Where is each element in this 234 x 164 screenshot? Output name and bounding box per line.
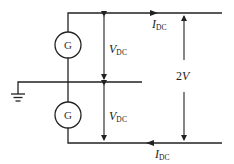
total-voltage-label: 2V <box>176 70 189 82</box>
generator-top-label: G <box>55 40 81 51</box>
voltage-top-label: VDC <box>109 43 127 57</box>
current-arrow-bottom-icon <box>146 140 154 146</box>
generator-bottom-label: G <box>55 110 81 121</box>
top-wire <box>68 13 222 32</box>
current-bottom-label: IDC <box>155 148 170 162</box>
bottom-wire <box>68 128 222 143</box>
voltage-bottom-label: VDC <box>109 110 127 124</box>
current-top-label: IDC <box>152 18 167 32</box>
circuit-diagram <box>0 0 234 164</box>
middle-wire <box>18 82 142 94</box>
ground-icon <box>11 94 25 101</box>
current-arrow-top-icon <box>150 10 158 16</box>
